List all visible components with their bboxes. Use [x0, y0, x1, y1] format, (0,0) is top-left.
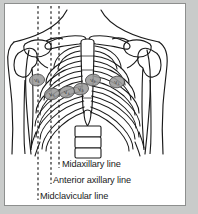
figure-frame: V1 V2 V3 V4 V5	[0, 0, 198, 214]
label-midaxillary-line: Midaxillary line	[62, 159, 121, 169]
label-midclavicular-line: Midclavicular line	[40, 191, 108, 201]
scapula-right	[112, 38, 151, 68]
electrode-V5: V5	[43, 87, 60, 102]
electrode-V4: V4	[58, 85, 75, 100]
figure-plate: V1 V2 V3 V4 V5	[4, 3, 186, 206]
xiphoid-process	[84, 110, 91, 126]
vertebral-column	[75, 126, 101, 158]
label-anterior-axillary-line: Anterior axillary line	[53, 175, 131, 185]
electrode-V6: V6	[29, 73, 46, 87]
scapula-left	[24, 38, 63, 68]
